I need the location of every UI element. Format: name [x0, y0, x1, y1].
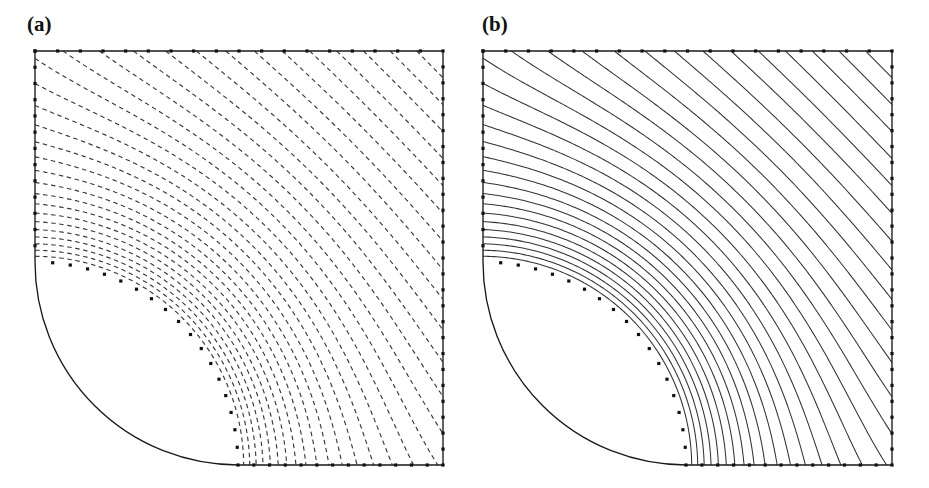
- equipotential-line: [866, 51, 892, 78]
- equipotential-line: [483, 213, 735, 465]
- boundary-node: [572, 49, 575, 52]
- boundary-node: [677, 411, 680, 414]
- boundary-node: [551, 273, 554, 276]
- boundary-node: [625, 320, 628, 323]
- boundary-node: [672, 394, 675, 397]
- equipotential-line: [758, 51, 892, 186]
- boundary-node: [822, 49, 825, 52]
- equipotential-line: [548, 51, 892, 397]
- boundary-node: [686, 49, 689, 52]
- panel-b-canvas: [0, 0, 929, 488]
- equipotential-line: [483, 250, 698, 465]
- equipotential-line: [785, 51, 892, 158]
- boundary-node: [732, 463, 735, 466]
- boundary-node: [890, 256, 893, 259]
- boundary-node: [890, 416, 893, 419]
- boundary-node: [481, 163, 484, 166]
- boundary-node: [777, 49, 780, 52]
- equipotential-line: [483, 58, 887, 465]
- boundary-node: [890, 320, 893, 323]
- boundary-node: [684, 463, 687, 466]
- equipotential-line: [483, 204, 744, 465]
- boundary-node: [890, 240, 893, 243]
- equipotential-line: [483, 157, 791, 465]
- boundary-node: [890, 304, 893, 307]
- boundary-node-group: [481, 49, 893, 466]
- boundary-node: [481, 195, 484, 198]
- boundary-node: [481, 98, 484, 101]
- boundary-node: [890, 177, 893, 180]
- boundary-node: [779, 463, 782, 466]
- boundary-node: [481, 131, 484, 134]
- boundary-node: [754, 49, 757, 52]
- boundary-node: [481, 244, 484, 247]
- boundary-node: [890, 113, 893, 116]
- equipotential-line: [645, 51, 892, 299]
- boundary-node: [481, 82, 484, 85]
- equipotential-line: [483, 244, 704, 465]
- boundary-node: [684, 446, 687, 449]
- boundary-node: [890, 447, 893, 450]
- boundary-node: [890, 463, 893, 466]
- boundary-node: [499, 261, 502, 264]
- boundary-node: [845, 49, 848, 52]
- boundary-node: [890, 49, 893, 52]
- equipotential-line: [483, 222, 726, 465]
- boundary-node: [665, 378, 668, 381]
- boundary-node: [595, 49, 598, 52]
- boundary-node: [795, 463, 798, 466]
- boundary-node: [550, 49, 553, 52]
- equipotential-line: [674, 51, 892, 270]
- boundary-node: [811, 463, 814, 466]
- boundary-node: [890, 368, 893, 371]
- equipotential-line: [812, 51, 892, 131]
- boundary-node: [481, 114, 484, 117]
- figure-container: (a) (b): [0, 0, 929, 488]
- equipotential-line: [483, 256, 692, 465]
- boundary-node: [890, 97, 893, 100]
- boundary-node: [534, 267, 537, 270]
- boundary-node: [583, 288, 586, 291]
- equipotential-line: [839, 51, 892, 105]
- boundary-node: [612, 308, 615, 311]
- boundary-node: [890, 272, 893, 275]
- boundary-node: [648, 347, 651, 350]
- boundary-node: [481, 147, 484, 150]
- boundary-node: [481, 212, 484, 215]
- boundary-node: [890, 288, 893, 291]
- boundary-node: [890, 129, 893, 132]
- boundary-node: [481, 228, 484, 231]
- boundary-node: [504, 49, 507, 52]
- boundary-node: [890, 384, 893, 387]
- boundary-node: [890, 336, 893, 339]
- boundary-node: [481, 66, 484, 69]
- boundary-node: [709, 49, 712, 52]
- boundary-node: [868, 49, 871, 52]
- boundary-node: [890, 225, 893, 228]
- equipotential-line: [483, 237, 711, 465]
- boundary-node: [859, 463, 862, 466]
- boundary-node: [800, 49, 803, 52]
- equipotential-line: [614, 51, 892, 330]
- boundary-node: [481, 49, 484, 52]
- boundary-node: [764, 463, 767, 466]
- boundary-node: [843, 463, 846, 466]
- boundary-node: [481, 179, 484, 182]
- boundary-node: [657, 362, 660, 365]
- boundary-node: [890, 161, 893, 164]
- equipotential-line: [483, 142, 805, 465]
- boundary-node: [890, 400, 893, 403]
- boundary-node: [890, 352, 893, 355]
- boundary-node: [716, 463, 719, 466]
- boundary-node: [527, 49, 530, 52]
- contour-group: [483, 51, 892, 465]
- panel-b: (b): [0, 0, 929, 488]
- boundary-node: [663, 49, 666, 52]
- boundary-node: [875, 463, 878, 466]
- boundary-node: [890, 145, 893, 148]
- equipotential-line: [511, 51, 892, 434]
- boundary-node: [700, 463, 703, 466]
- boundary-node: [890, 432, 893, 435]
- boundary-node: [890, 209, 893, 212]
- boundary-node: [890, 65, 893, 68]
